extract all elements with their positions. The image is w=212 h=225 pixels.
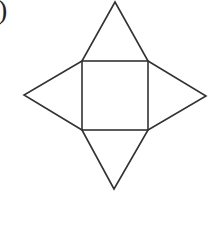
triangle-top bbox=[82, 2, 148, 61]
pyramid-net bbox=[0, 0, 212, 225]
triangle-right bbox=[148, 61, 206, 130]
figure-canvas: ) bbox=[0, 0, 212, 225]
triangle-left bbox=[24, 61, 82, 130]
square-base bbox=[82, 61, 148, 130]
triangle-bottom bbox=[82, 130, 148, 189]
